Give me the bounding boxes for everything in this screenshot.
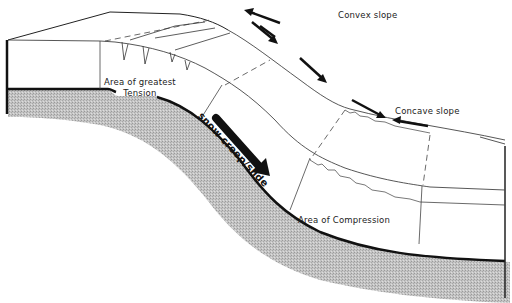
tension-cracks [122, 22, 230, 70]
ground-layer [8, 89, 510, 303]
snow-right-top-edge [480, 137, 505, 144]
label-tension-line1: Area of greatest [104, 77, 176, 88]
concave-downslope-arrow [352, 100, 386, 118]
label-area-greatest-tension: Area of greatest Tension [104, 77, 176, 99]
dashed-line-4 [423, 135, 430, 185]
dashed-line-3 [310, 110, 345, 160]
diagram-canvas: Area of greatest Tension Convex slope Co… [0, 0, 512, 303]
concave-upslope-arrow [392, 116, 428, 126]
mid-slope-arrow [300, 58, 327, 83]
snow-creep-diagram [0, 0, 512, 303]
lower-right-edge [420, 202, 505, 205]
convex-upslope-arrow [244, 8, 280, 23]
label-tension-line2: Tension [104, 88, 176, 99]
compression-wrinkles [310, 160, 420, 202]
divider-4 [419, 186, 422, 244]
label-area-compression: Area of Compression [298, 215, 390, 225]
label-concave-slope: Concave slope [395, 106, 460, 116]
snow-back-slope [228, 30, 505, 140]
dashed-line-2 [225, 60, 270, 85]
label-convex-slope: Convex slope [338, 10, 397, 20]
divider-3 [290, 158, 310, 210]
snow-top-back-edge [8, 12, 228, 40]
convex-downslope-arrow-2 [252, 22, 278, 44]
